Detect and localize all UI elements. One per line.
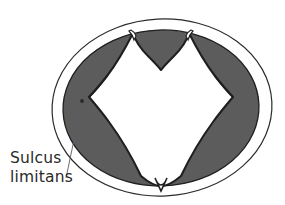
cross-section-diagram: Sulcus limitans: [0, 0, 285, 205]
figure-root: Sulcus limitans: [0, 0, 285, 205]
sulcus-limitans-pointer-dot: [80, 99, 84, 103]
sulcus-limitans-label-line1: Sulcus: [10, 149, 62, 167]
sulcus-limitans-label-line2: limitans: [10, 168, 73, 186]
